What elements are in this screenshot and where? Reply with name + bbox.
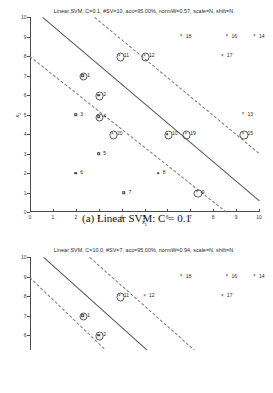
data-point: 2 (98, 95, 99, 96)
y-tick (27, 296, 30, 297)
chart-b-y-axis (30, 257, 31, 350)
data-point: ×12 (144, 296, 145, 297)
y-tick (27, 154, 30, 155)
y-tick-label: 5 (24, 112, 27, 118)
y-tick (27, 37, 30, 38)
data-point-label: 12 (149, 293, 155, 298)
data-point-label: 16 (231, 33, 237, 38)
data-point: ×11 (119, 56, 120, 57)
data-point: ×11 (119, 296, 120, 297)
y-tick (27, 17, 30, 18)
square-marker-icon (97, 334, 100, 337)
square-marker-icon (97, 115, 100, 118)
data-point-label: 12 (149, 53, 155, 58)
y-tick (27, 316, 30, 317)
data-point-label: 3 (80, 111, 83, 116)
data-point: ×15 (242, 134, 243, 135)
data-point-label: 18 (186, 33, 192, 38)
data-point-label: 1 (87, 312, 90, 317)
y-tick (27, 277, 30, 278)
y-tick (27, 173, 30, 174)
figure-a: Linear SVM, C=0.1, #SV=10, acc=95.00%, n… (0, 0, 273, 240)
data-point: 4 (98, 116, 99, 117)
square-marker-icon (75, 172, 78, 175)
y-tick-label: 7 (24, 73, 27, 79)
data-point-label: 16 (231, 273, 237, 278)
cross-marker-icon: × (221, 294, 224, 299)
square-marker-icon (157, 172, 160, 175)
cross-marker-icon: × (143, 294, 146, 299)
square-marker-icon (81, 74, 84, 77)
y-tick-label: 6 (24, 332, 27, 338)
figure-page: Linear SVM, C=0.1, #SV=10, acc=95.00%, n… (0, 0, 273, 393)
data-point: ×17 (222, 296, 223, 297)
cross-marker-icon: × (253, 34, 256, 39)
chart-a-y-axis-label: x2 (14, 112, 22, 117)
data-point: ×20 (112, 134, 113, 135)
y-tick-label: 6 (24, 92, 27, 98)
square-marker-icon (123, 191, 126, 194)
upper-margin (89, 257, 259, 350)
chart-a-plot-area: x1 x2 01234567891001234567891012345678×9… (30, 17, 259, 212)
data-point: ×13 (242, 114, 243, 115)
data-point: ×16 (226, 276, 227, 277)
cross-marker-icon: × (242, 112, 245, 117)
chart-b-title: Linear SVM, C=10.0, #SV=7, acc=95.00%, n… (0, 247, 273, 253)
y-tick-label: 10 (21, 14, 27, 20)
data-point-label: 17 (227, 293, 233, 298)
y-tick (27, 76, 30, 77)
data-point: 1 (82, 75, 83, 76)
cross-marker-icon: × (118, 294, 121, 299)
y-tick (27, 134, 30, 135)
cross-marker-icon: × (242, 132, 245, 137)
data-point: ×9 (197, 192, 198, 193)
y-tick (27, 115, 30, 116)
data-point-label: 14 (259, 273, 265, 278)
data-point-label: 9 (202, 189, 205, 194)
chart-a-y-axis (30, 17, 31, 212)
data-point: ×17 (222, 56, 223, 57)
figure-b: Linear SVM, C=10.0, #SV=7, acc=95.00%, n… (0, 240, 273, 350)
data-point-label: 8 (163, 170, 166, 175)
chart-a-title: Linear SVM, C=0.1, #SV=10, acc=95.00%, n… (0, 8, 273, 14)
cross-marker-icon: × (111, 132, 114, 137)
data-point: 10 (167, 134, 168, 135)
data-point: ×18 (181, 36, 182, 37)
square-marker-icon (97, 94, 100, 97)
decision-boundary (43, 257, 259, 350)
y-tick-label: 8 (24, 293, 27, 299)
cross-marker-icon: × (226, 274, 229, 279)
y-tick-label: 9 (24, 34, 27, 40)
data-point: ×12 (144, 56, 145, 57)
data-point-label: 18 (186, 273, 192, 278)
square-marker-icon (81, 314, 84, 317)
data-point: ×14 (254, 276, 255, 277)
data-point-label: 2 (103, 92, 106, 97)
data-point: 6 (75, 173, 76, 174)
data-point: 5 (98, 153, 99, 154)
y-tick-label: 1 (24, 190, 27, 196)
y-tick (27, 56, 30, 57)
y-tick (27, 335, 30, 336)
data-point-label: 20 (117, 131, 123, 136)
y-tick (27, 95, 30, 96)
data-point: ×18 (181, 276, 182, 277)
data-point-label: 6 (80, 170, 83, 175)
data-point: ×16 (226, 36, 227, 37)
y-tick-label: 3 (24, 151, 27, 157)
square-marker-icon (75, 113, 78, 116)
data-point-label: 11 (124, 53, 129, 58)
data-point-label: 1 (87, 72, 90, 77)
cross-marker-icon: × (226, 34, 229, 39)
y-tick-label: 8 (24, 53, 27, 59)
y-tick-label: 4 (24, 131, 27, 137)
data-point-label: 19 (190, 131, 196, 136)
y-tick-label: 9 (24, 274, 27, 280)
y-tick-label: 7 (24, 313, 27, 319)
data-point-label: 4 (103, 113, 106, 118)
figure-a-caption: (a) Linear SVM: C = 0.1 (0, 212, 273, 224)
data-point: 2 (98, 335, 99, 336)
cross-marker-icon: × (196, 190, 199, 195)
y-tick (27, 257, 30, 258)
data-point: ×19 (185, 134, 186, 135)
